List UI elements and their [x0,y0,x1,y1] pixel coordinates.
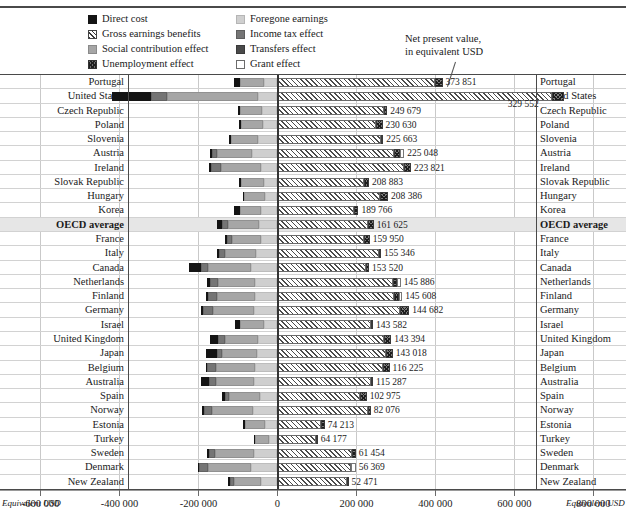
bar-segment-unemp [316,435,318,444]
npv-value-label: 143 582 [376,318,407,332]
bar-segment-gross [277,235,364,244]
bar-segment-direct [112,92,151,101]
bar-segment-direct [201,306,203,315]
bar-segment-social [225,249,257,258]
bar-segment-gross [277,178,364,187]
country-label-left: Poland [0,118,124,132]
direct-cost-swatch-icon [88,15,97,24]
social-contribution-effect-swatch-icon [88,45,97,54]
legend-item-income-tax-effect: Income tax effect [236,27,328,41]
bar-segment-incometax [199,463,208,472]
bar-segment-direct [222,392,224,401]
bar-segment-gross [277,263,365,272]
bar-segment-social [221,163,260,172]
npv-value-label: 153 520 [372,261,403,275]
legend-label: Transfers effect [250,42,316,56]
bar-segment-social [217,292,255,301]
bar-segment-grant [351,463,356,472]
country-label-right: Finland [540,289,626,303]
bar-segment-foregone [256,249,277,258]
country-label-left: Austria [0,146,124,160]
country-label-right: Portugal [540,75,626,89]
country-label-right: Belgium [540,361,626,375]
npv-value-label: 145 886 [404,275,435,289]
bar-segment-grant [399,292,402,301]
country-label-right: Poland [540,118,626,132]
bar-segment-foregone [264,78,277,87]
x-axis-tick-label: -400 000 [79,498,159,509]
bar-segment-gross [277,192,380,201]
bar-segment-gross [277,78,435,87]
grant-effect-swatch-icon [236,60,245,69]
bar-segment-direct [209,163,211,172]
top-divider [0,6,626,8]
bar-segment-foregone [264,178,277,187]
legend-label: Direct cost [102,12,148,26]
bar-segment-unemp [321,420,325,429]
bar-segment-direct [254,435,256,444]
legend-item-foregone-earnings: Foregone earnings [236,12,328,26]
bar-segment-incometax [209,449,215,458]
npv-value-label: 225 663 [386,132,417,146]
bar-segment-foregone [264,320,277,329]
bar-segment-social [215,449,254,458]
bar-segment-incometax [211,163,221,172]
country-label-left: Ireland [0,161,124,175]
npv-value-label: 189 766 [361,203,392,217]
country-label-left: Italy [0,246,124,260]
country-label-right: Denmark [540,460,626,474]
bar-segment-foregone [262,106,277,115]
bar-segment-direct [210,149,212,158]
npv-value-label: 230 630 [386,118,417,132]
bar-segment-incometax [203,306,212,315]
country-label-right: Norway [540,403,626,417]
country-label-left: Portugal [0,75,124,89]
country-label-left: France [0,232,124,246]
bar-segment-gross [277,349,386,358]
country-label-right: Turkey [540,432,626,446]
bar-segment-unemp [368,406,370,415]
bar-segment-incometax [225,392,230,401]
bar-segment-social [245,420,265,429]
npv-value-label: 82 076 [374,403,400,417]
bar-segment-unemp [360,392,367,401]
chart-frame: PortugalPortugal373 851United StatesUnit… [0,74,626,490]
bar-segment-gross [277,449,352,458]
country-label-left: Finland [0,289,124,303]
npv-value-label: 159 950 [373,232,404,246]
npv-value-label: 161 625 [377,218,408,232]
country-label-left: Slovenia [0,132,124,146]
x-axis-line [0,490,626,491]
bar-segment-foregone [254,377,278,386]
bar-segment-foregone [251,463,277,472]
legend-label: Grant effect [250,57,300,71]
country-label-right: Japan [540,346,626,360]
x-axis-tick [277,490,278,496]
bar-segment-foregone [251,263,277,272]
bar-segment-incometax [207,363,216,372]
bar-segment-social [212,406,253,415]
country-label-right: United Kingdom [540,332,626,346]
income-tax-effect-swatch-icon [236,30,245,39]
country-label-left: Canada [0,261,124,275]
bar-segment-social [208,263,251,272]
bar-segment-unemp [552,92,564,101]
bar-segment-gross [277,335,384,344]
bar-segment-incometax [230,477,234,486]
country-label-right: Canada [540,261,626,275]
bar-segment-unemp [380,192,388,201]
bar-segment-unemp [383,363,390,372]
npv-annotation: Net present value, in equivalent USD [405,32,555,58]
bar-segment-unemp [376,120,382,129]
bar-segment-foregone [265,192,278,201]
bar-segment-gross [277,249,378,258]
country-label-left: Norway [0,403,124,417]
bar-segment-social [232,235,261,244]
bar-segment-foregone [261,477,278,486]
bar-segment-direct [217,220,222,229]
country-label-left: Korea [0,203,124,217]
bar-segment-foregone [269,435,278,444]
bar-segment-social [241,120,263,129]
transfers-effect-swatch-icon [236,45,245,54]
bar-segment-incometax [218,335,224,344]
